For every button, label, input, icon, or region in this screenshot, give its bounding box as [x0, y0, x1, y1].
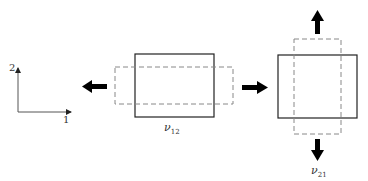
diagram-svg [0, 0, 368, 181]
axis-1-label: 1 [63, 114, 69, 125]
arrow-left-icon [82, 80, 107, 93]
nu12-label: ν12 [164, 121, 180, 136]
panel-nu21 [278, 10, 357, 161]
arrow-up-icon [311, 10, 324, 34]
poisson-ratio-diagram: 2 1 ν12 ν21 [0, 0, 368, 181]
original-shape [135, 54, 214, 117]
panel-nu12 [82, 54, 268, 117]
arrow-right-icon [242, 81, 268, 94]
deformed-shape [115, 67, 233, 104]
deformed-shape [294, 39, 341, 134]
axis-2-label: 2 [9, 62, 15, 73]
arrow-down-icon [311, 139, 324, 161]
original-shape [278, 55, 357, 118]
nu21-label: ν21 [311, 164, 327, 179]
axis-triad [18, 68, 71, 112]
